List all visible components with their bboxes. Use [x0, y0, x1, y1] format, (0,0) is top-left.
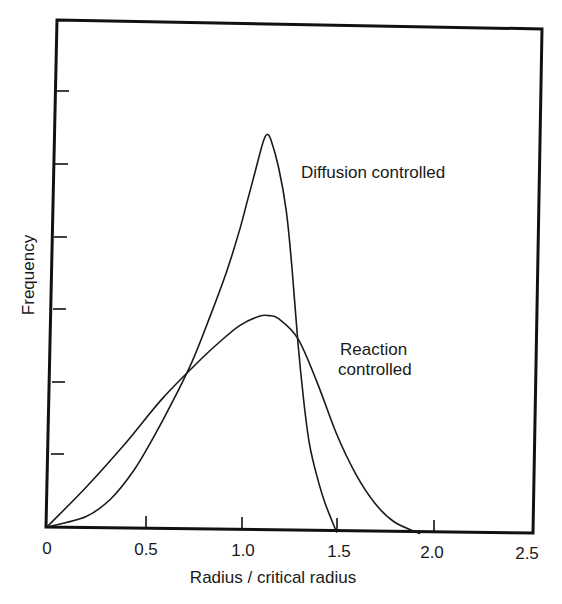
diffusion-controlled-curve	[47, 134, 337, 532]
x-axis-title: Radius / critical radius	[190, 568, 356, 587]
reaction-controlled-label-line2: controlled	[338, 360, 412, 379]
frequency-distribution-chart: 0 0.5 1.0 1.5 2.0 2.5 Radius / critical …	[0, 0, 562, 604]
x-tick-label: 2.0	[420, 543, 444, 562]
plot-frame	[46, 20, 542, 533]
x-tick-labels: 0 0.5 1.0 1.5 2.0 2.5	[42, 539, 539, 563]
x-tick-label: 1.5	[327, 542, 351, 561]
x-tick-label: 2.5	[515, 544, 539, 563]
x-tick-label: 0.5	[134, 540, 158, 559]
x-tick-label: 1.0	[231, 541, 255, 560]
y-axis-title: Frequency	[19, 234, 38, 315]
x-tick-label: 0	[42, 539, 51, 558]
reaction-controlled-label-line1: Reaction	[340, 340, 407, 359]
diffusion-controlled-label: Diffusion controlled	[301, 163, 445, 182]
